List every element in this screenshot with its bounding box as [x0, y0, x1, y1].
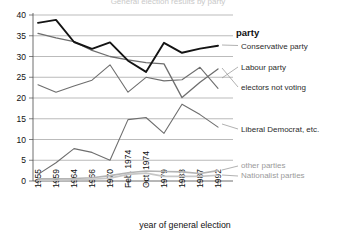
y-tick-0: 0 [21, 176, 26, 186]
series-labels: party Conservative party Labour party el… [222, 27, 319, 180]
series-line-electors-not-voting [38, 65, 218, 92]
x-tick-labels: 1955 1959 1964 1966 1970 Feb. 1974 Oct. … [33, 149, 223, 188]
series-label-labour-party: Labour party [241, 63, 286, 72]
y-ticks [29, 15, 33, 181]
x-tick-feb-1974: Feb. 1974 [123, 149, 133, 188]
leader-libdem [222, 124, 238, 129]
y-tick-10: 10 [17, 135, 27, 145]
y-tick-labels: 40 35 30 25 20 15 10 5 0 [17, 10, 27, 186]
leader-nationalist [222, 175, 238, 176]
x-tick-oct-1974: Oct. 1974 [141, 151, 151, 188]
leader-conservative [222, 45, 238, 46]
legend-heading: party [236, 27, 260, 38]
series-label-nationalist-parties: Nationalist parties [241, 171, 305, 180]
series-label-electors-not-voting: electors not voting [241, 83, 306, 92]
series-label-conservative-party: Conservative party [241, 42, 308, 51]
series-line-conservative-party [38, 20, 218, 72]
y-tick-40: 40 [17, 10, 27, 20]
y-tick-20: 20 [17, 93, 27, 103]
x-axis-title: year of general election [139, 220, 231, 230]
chart-title: General election results by party [111, 0, 226, 6]
y-tick-30: 30 [17, 52, 27, 62]
y-tick-35: 35 [17, 31, 27, 41]
line-chart: General election results by party [0, 0, 337, 240]
y-tick-5: 5 [21, 155, 26, 165]
leader-labour [222, 67, 238, 78]
series-label-other-parties: other parties [241, 161, 285, 170]
chart-container: General election results by party [0, 0, 337, 240]
series-line-labour-party [38, 33, 218, 97]
y-tick-25: 25 [17, 72, 27, 82]
x-tick-1987: 1987 [195, 169, 205, 188]
series-label-liberal-democrat: Liberal Democrat, etc. [241, 125, 319, 134]
leader-other [222, 166, 238, 170]
y-tick-15: 15 [17, 114, 27, 124]
